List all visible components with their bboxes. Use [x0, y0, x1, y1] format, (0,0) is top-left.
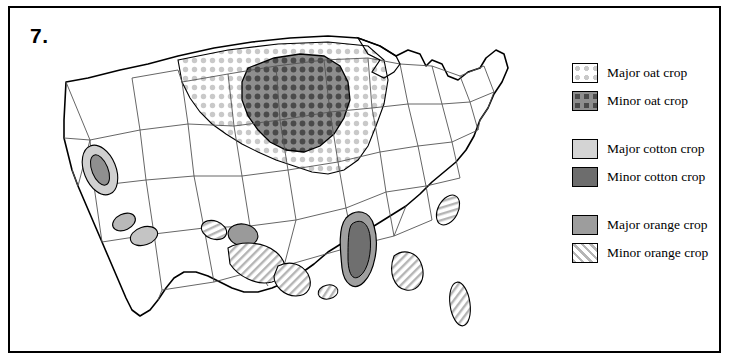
swatch-minor-oat [572, 91, 598, 111]
swatch-major-cotton [572, 139, 598, 159]
legend-row-major-orange: Major orange crop [572, 212, 722, 238]
legend-group-cotton: Major cotton crop Minor cotton crop [572, 136, 722, 190]
swatch-minor-cotton [572, 167, 598, 187]
swatch-major-orange [572, 215, 598, 235]
legend-label-major-cotton: Major cotton crop [607, 142, 704, 156]
legend-row-minor-cotton: Minor cotton crop [572, 164, 722, 190]
legend-group-orange: Major orange crop Minor orange crop [572, 212, 722, 266]
legend-label-minor-orange: Minor orange crop [607, 246, 708, 260]
legend-row-major-oat: Major oat crop [572, 60, 722, 86]
legend-group-oat: Major oat crop Minor oat crop [572, 60, 722, 114]
region-southeast-cotton [392, 252, 423, 290]
legend-label-minor-oat: Minor oat crop [607, 94, 688, 108]
legend-label-major-orange: Major orange crop [607, 218, 707, 232]
region-gulf-coast-cotton [317, 283, 339, 301]
map-legend: Major oat crop Minor oat crop Major cott… [572, 60, 722, 288]
region-mississippi-delta-cotton [340, 212, 376, 287]
map-svg [28, 20, 548, 340]
legend-row-major-cotton: Major cotton crop [572, 136, 722, 162]
swatch-minor-orange [572, 243, 598, 263]
legend-label-major-oat: Major oat crop [607, 66, 687, 80]
figure-frame: 7. [8, 6, 721, 353]
legend-label-minor-cotton: Minor cotton crop [607, 170, 705, 184]
swatch-major-oat [572, 63, 598, 83]
legend-row-minor-orange: Minor orange crop [572, 240, 722, 266]
region-florida-orange [447, 281, 473, 327]
screenshot-root: 7. [0, 0, 731, 361]
legend-row-minor-oat: Minor oat crop [572, 88, 722, 114]
us-crop-map [28, 20, 548, 340]
region-carolina-cotton [432, 191, 465, 229]
